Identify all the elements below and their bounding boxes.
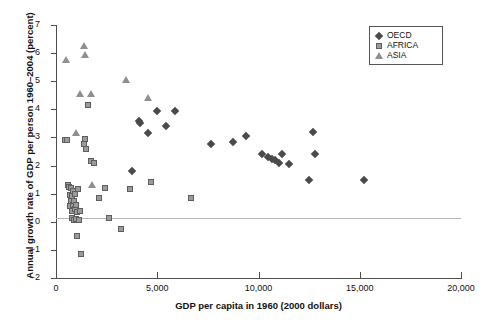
x-tick-label: 5,000 [132, 283, 182, 293]
square-icon [96, 195, 102, 201]
x-tick-label: 15,000 [335, 283, 385, 293]
legend-label-africa: AFRICA [387, 41, 418, 50]
triangle-icon [80, 42, 88, 49]
legend-item-africa[interactable]: AFRICA [374, 41, 438, 50]
diamond-icon [171, 106, 179, 114]
square-icon [76, 217, 82, 223]
square-icon [188, 195, 194, 201]
y-tick-label: 6 [14, 48, 40, 57]
y-tick-label: 0 [14, 217, 40, 226]
legend-label-asia: ASIA [387, 51, 406, 60]
diamond-icon [162, 122, 170, 130]
diamond-icon [305, 175, 313, 183]
diamond-icon [153, 106, 161, 114]
square-icon [75, 186, 81, 192]
square-icon [374, 41, 383, 50]
square-icon [78, 251, 84, 257]
y-tick-label: −1 [14, 245, 40, 254]
y-tick-label: 3 [14, 132, 40, 141]
square-icon [91, 160, 97, 166]
diamond-icon [229, 137, 237, 145]
triangle-icon [374, 51, 383, 60]
y-tick-label: 7 [14, 20, 40, 29]
triangle-icon [88, 181, 96, 188]
legend-item-oecd[interactable]: OECD [374, 31, 438, 40]
y-tick-label: 5 [14, 76, 40, 85]
diamond-icon [278, 150, 286, 158]
scatter-chart-figure: Annual growth rate of GDP per person 196… [0, 0, 485, 326]
square-icon [77, 208, 83, 214]
diamond-icon [128, 167, 136, 175]
square-icon [127, 186, 133, 192]
square-icon [85, 102, 91, 108]
diamond-icon [285, 160, 293, 168]
triangle-icon [76, 90, 84, 97]
diamond-icon [311, 150, 319, 158]
triangle-icon [122, 76, 130, 83]
diamond-icon [242, 132, 250, 140]
diamond-icon [144, 129, 152, 137]
y-tick-label: −2 [14, 273, 40, 282]
diamond-icon [374, 31, 383, 40]
y-tick-label: 4 [14, 104, 40, 113]
x-tick-label: 10,000 [234, 283, 284, 293]
square-icon [82, 136, 88, 142]
square-icon [106, 215, 112, 221]
square-icon [118, 226, 124, 232]
diamond-icon [360, 175, 368, 183]
x-tick-label: 20,000 [436, 283, 485, 293]
triangle-icon [81, 51, 89, 58]
diamond-icon [309, 128, 317, 136]
square-icon [102, 185, 108, 191]
x-axis-title: GDP per capita in 1960 (2000 dollars) [56, 300, 461, 311]
triangle-icon [72, 129, 80, 136]
y-tick-label: 1 [14, 189, 40, 198]
diamond-icon [207, 140, 215, 148]
x-tick-mark [461, 272, 462, 279]
square-icon [148, 179, 154, 185]
square-icon [64, 137, 70, 143]
legend-label-oecd: OECD [387, 31, 412, 40]
triangle-icon [87, 90, 95, 97]
triangle-icon [62, 56, 70, 63]
x-tick-label: 0 [31, 283, 81, 293]
triangle-icon [144, 94, 152, 101]
square-icon [74, 233, 80, 239]
y-tick-label: 2 [14, 161, 40, 170]
chart-legend: OECD AFRICA ASIA [369, 26, 443, 65]
square-icon [83, 146, 89, 152]
legend-item-asia[interactable]: ASIA [374, 51, 438, 60]
